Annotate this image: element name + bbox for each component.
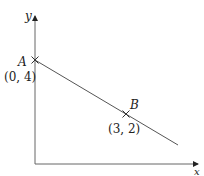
point-a-coords: (0, 4) <box>4 70 36 84</box>
y-axis-label: y <box>24 9 32 23</box>
point-b-marker <box>123 111 130 118</box>
point-a-label: A <box>17 55 27 69</box>
point-b-coords: (3, 2) <box>108 122 140 136</box>
point-b-label: B <box>129 98 139 112</box>
line-ab <box>35 60 178 145</box>
graph-svg: y x A (0, 4) B (3, 2) <box>0 0 204 176</box>
line-graph-diagram: y x A (0, 4) B (3, 2) <box>0 0 204 176</box>
x-axis-label: x <box>194 166 200 176</box>
